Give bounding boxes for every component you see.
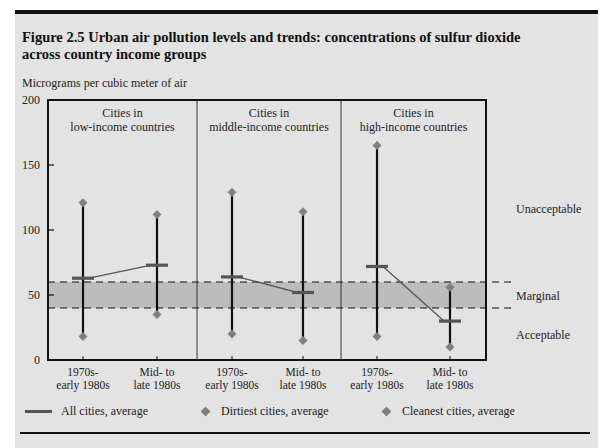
x-category-1: 1970s-early 1980s	[43, 366, 123, 392]
legend-item-dirtiest: Dirtiest cities, average	[200, 404, 329, 419]
group-label: middle-income countries	[209, 120, 329, 134]
cleanest-marker	[299, 336, 308, 345]
diamond-icon	[382, 407, 392, 417]
average-marker	[146, 264, 168, 267]
average-marker	[72, 277, 94, 280]
average-marker	[292, 291, 314, 294]
dirtiest-marker	[228, 188, 237, 197]
group-label: Cities in	[393, 106, 433, 120]
dirtiest-marker	[373, 141, 382, 150]
group-label: Cities in	[102, 106, 142, 120]
group-label: low-income countries	[70, 120, 175, 134]
plot-frame	[48, 100, 486, 360]
y-tick-label: 200	[22, 93, 40, 107]
x-category-3: 1970s-early 1980s	[192, 366, 272, 392]
diamond-icon	[201, 407, 211, 417]
group-label: Cities in	[249, 106, 289, 120]
zone-label-unacceptable: Unacceptable	[516, 202, 581, 217]
x-category-4: Mid- tolate 1980s	[263, 366, 343, 392]
marginal-band	[48, 282, 486, 308]
zone-label-marginal: Marginal	[516, 289, 560, 304]
group-label: high-income countries	[360, 120, 468, 134]
dirtiest-marker	[153, 210, 162, 219]
average-marker	[366, 265, 388, 268]
y-tick-label: 0	[34, 353, 40, 367]
x-category-6: Mid- tolate 1980s	[410, 366, 490, 392]
dirtiest-marker	[299, 207, 308, 216]
x-category-5: 1970s-early 1980s	[337, 366, 417, 392]
y-tick-label: 100	[22, 223, 40, 237]
average-marker	[221, 275, 243, 278]
cleanest-marker	[79, 332, 88, 341]
x-category-2: Mid- tolate 1980s	[117, 366, 197, 392]
cleanest-marker	[228, 330, 237, 339]
cleanest-marker	[153, 310, 162, 319]
legend-item-cleanest: Cleanest cities, average	[381, 404, 515, 419]
average-bar-icon	[25, 410, 52, 413]
bottom-rule	[20, 432, 590, 434]
cleanest-marker	[373, 332, 382, 341]
dirtiest-marker	[79, 198, 88, 207]
legend-item-average: All cities, average	[25, 404, 148, 419]
zone-label-acceptable: Acceptable	[516, 328, 570, 343]
y-tick-label: 150	[22, 158, 40, 172]
cleanest-marker	[446, 343, 455, 352]
average-marker	[439, 320, 461, 323]
y-tick-label: 50	[28, 288, 40, 302]
trend-line	[89, 265, 151, 278]
